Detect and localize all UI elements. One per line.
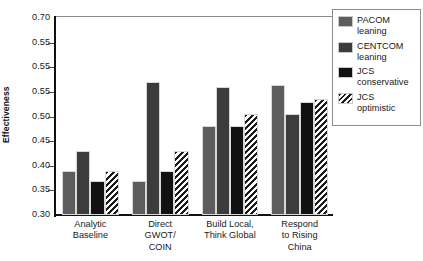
y-axis-tick-label: 0.45	[17, 137, 50, 146]
legend-entry[interactable]: JCS conservative	[338, 66, 420, 88]
y-axis-tick-label: 0.50	[17, 112, 50, 121]
legend: PACOM leaningCENTCOM leaningJCS conserva…	[332, 9, 421, 126]
legend-entry[interactable]: CENTCOM leaning	[338, 41, 420, 63]
y-axis-tick-label: 0.55	[17, 87, 50, 96]
bar	[230, 126, 244, 215]
x-axis-category-label: Build Local, Think Global	[196, 219, 264, 242]
bar	[300, 102, 314, 215]
x-axis-category-labels: Analytic BaselineDirect GWOT/ COINBuild …	[54, 219, 333, 261]
grouped-bar-chart: Effectiveness 0.700.550.550.550.500.450.…	[0, 0, 423, 261]
bar	[90, 181, 104, 215]
legend-color-swatch	[338, 67, 353, 78]
bar	[62, 171, 76, 215]
y-axis-tick-mark	[48, 190, 54, 191]
legend-color-swatch	[338, 93, 353, 104]
y-axis-tick-label: 0.40	[17, 161, 50, 170]
legend-label: JCS conservative	[357, 66, 409, 88]
bar	[174, 151, 188, 215]
y-axis-tick-mark	[48, 67, 54, 68]
legend-entry[interactable]: PACOM leaning	[338, 15, 420, 37]
bars-layer	[54, 18, 333, 215]
y-axis-tick-mark	[48, 166, 54, 167]
legend-color-swatch	[338, 42, 353, 53]
y-axis-tick-labels: 0.700.550.550.550.500.450.400.350.30	[17, 0, 50, 220]
x-axis-category-label: Direct GWOT/ COIN	[126, 219, 194, 253]
x-axis-category-label: Analytic Baseline	[56, 219, 124, 242]
bar-group	[202, 18, 260, 215]
bar-group	[271, 18, 329, 215]
y-axis-tick-mark	[48, 141, 54, 142]
y-axis-tick-mark	[48, 92, 54, 93]
y-axis-tick-label: 0.30	[17, 210, 50, 219]
legend-color-swatch	[338, 16, 353, 27]
bar	[202, 126, 216, 215]
bar	[285, 114, 299, 215]
plot-area	[54, 18, 333, 215]
bar	[146, 82, 160, 215]
y-axis-tick-label: 0.55	[17, 38, 50, 47]
y-axis-tick-label: 0.70	[17, 13, 50, 22]
legend-entry[interactable]: JCS optimistic	[338, 92, 420, 114]
y-axis-tick-mark	[48, 117, 54, 118]
y-axis-tick-label: 0.55	[17, 63, 50, 72]
y-axis-tick-mark	[48, 43, 54, 44]
bar-group	[62, 18, 120, 215]
plot-top-rule	[54, 16, 333, 17]
legend-label: JCS optimistic	[357, 92, 395, 114]
bar	[132, 181, 146, 215]
y-axis-tick-label: 0.35	[17, 186, 50, 195]
x-axis-category-label: Respond to Rising China	[266, 219, 334, 253]
y-axis-title: Effectiveness	[1, 60, 15, 170]
bar-group	[132, 18, 190, 215]
bar	[105, 171, 119, 215]
bar	[271, 85, 285, 216]
bar	[76, 151, 90, 215]
legend-label: PACOM leaning	[357, 15, 390, 37]
bar	[216, 87, 230, 215]
bar	[244, 114, 258, 215]
bar	[314, 99, 328, 215]
legend-label: CENTCOM leaning	[357, 41, 403, 63]
bar	[160, 171, 174, 215]
